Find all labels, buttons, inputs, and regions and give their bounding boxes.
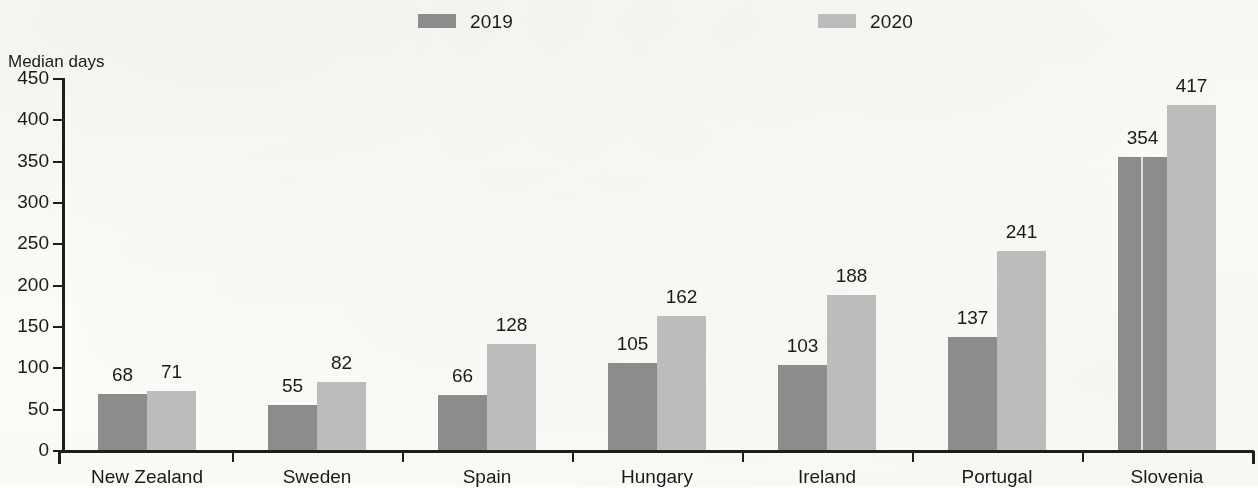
bar-value-label: 417 [1176,75,1208,97]
y-axis-tick [53,367,62,369]
legend-label: 2020 [870,12,913,31]
y-axis-tick-label: 400 [0,108,49,130]
y-axis-tick [53,202,62,204]
bar-2019-sweden[interactable] [268,405,317,450]
scan-artifact-line [1141,151,1143,450]
x-axis-tick [742,451,744,462]
chart-legend: 20192020 [0,10,1258,40]
x-axis-category-label: Sweden [283,466,352,488]
legend-entry-2020[interactable]: 2020 [818,10,913,32]
legend-label: 2019 [470,12,513,31]
bar-value-label: 188 [836,265,868,287]
legend-entry-2019[interactable]: 2019 [418,10,513,32]
y-axis-tick-label: 0 [0,439,49,461]
y-axis-tick [53,243,62,245]
bar-value-label: 71 [161,361,182,383]
bar-value-label: 128 [496,314,528,336]
y-axis-tick [53,119,62,121]
x-axis-end-tick [58,451,61,464]
bar-2020-hungary[interactable] [657,316,706,450]
bar-2019-hungary[interactable] [608,363,657,450]
y-axis-tick [53,285,62,287]
y-axis-tick-label: 300 [0,191,49,213]
x-axis-category-label: New Zealand [91,466,203,488]
x-axis-tick [572,451,574,462]
bar-2020-new-zealand[interactable] [147,391,196,450]
bar-value-label: 354 [1127,127,1159,149]
bar-value-label: 162 [666,286,698,308]
bar-2020-ireland[interactable] [827,295,876,450]
y-axis-tick [53,409,62,411]
x-axis-category-label: Spain [463,466,512,488]
plot-area: 0501001502002503003504004506871New Zeala… [62,78,1252,450]
x-axis-line [58,450,1254,453]
bar-value-label: 241 [1006,221,1038,243]
x-axis-category-label: Ireland [798,466,856,488]
y-axis-line [62,78,65,450]
x-axis-tick [232,451,234,462]
bar-value-label: 68 [112,364,133,386]
bar-value-label: 82 [331,352,352,374]
bar-value-label: 105 [617,333,649,355]
bar-2020-slovenia[interactable] [1167,105,1216,450]
y-axis-tick-label: 200 [0,274,49,296]
bar-2019-spain[interactable] [438,395,487,450]
y-axis-tick [53,326,62,328]
x-axis-category-label: Portugal [962,466,1033,488]
legend-swatch-icon [418,14,456,28]
bar-value-label: 137 [957,307,989,329]
y-axis-tick-label: 100 [0,356,49,378]
y-axis-tick-label: 350 [0,150,49,172]
bar-2020-sweden[interactable] [317,382,366,450]
y-axis-tick [53,78,62,80]
x-axis-tick [402,451,404,462]
bar-value-label: 55 [282,375,303,397]
bar-value-label: 66 [452,365,473,387]
bar-2019-ireland[interactable] [778,365,827,450]
bar-2019-new-zealand[interactable] [98,394,147,450]
bar-2019-portugal[interactable] [948,337,997,450]
y-axis-tick [53,161,62,163]
x-axis-tick [912,451,914,462]
bar-2020-spain[interactable] [487,344,536,450]
legend-swatch-icon [818,14,856,28]
x-axis-category-label: Slovenia [1131,466,1204,488]
bar-2020-portugal[interactable] [997,251,1046,450]
y-axis-tick-label: 250 [0,232,49,254]
y-axis-tick-label: 150 [0,315,49,337]
y-axis-tick-label: 450 [0,67,49,89]
x-axis-category-label: Hungary [621,466,693,488]
x-axis-end-tick [1252,451,1255,464]
y-axis-tick-label: 50 [0,398,49,420]
bar-value-label: 103 [787,335,819,357]
x-axis-tick [1082,451,1084,462]
